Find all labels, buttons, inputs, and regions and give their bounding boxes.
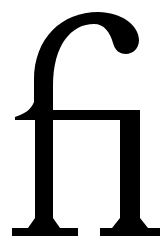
- fi-ligature-icon: [0, 0, 166, 250]
- fi-ligature-glyph: ﬁ: [0, 0, 166, 250]
